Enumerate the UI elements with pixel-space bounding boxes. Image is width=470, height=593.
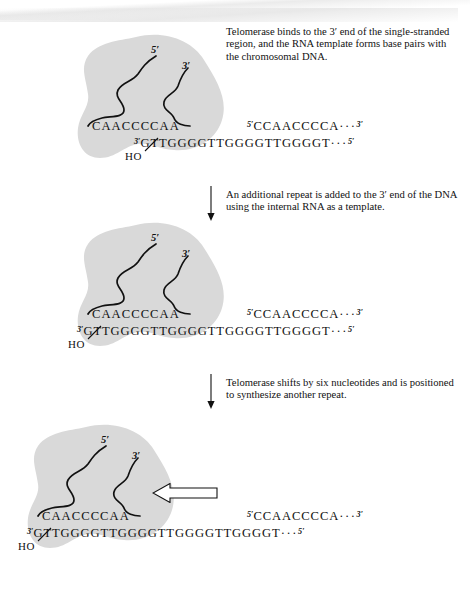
telomerase-shift-arrow	[152, 483, 218, 503]
bottom-strand-dots-2: ···	[331, 324, 348, 338]
bottom-strand-dots-3: ···	[281, 526, 298, 540]
rna-five-prime-label-2: 5′	[151, 232, 159, 243]
top-strand-end-2: 3′	[357, 308, 363, 317]
top-strand-bases-3: CCAACCCCA	[253, 509, 339, 523]
scan-shadow	[0, 0, 470, 20]
top-strand-dots-2: ···	[339, 307, 356, 321]
top-strand-end-1: 3′	[357, 120, 363, 129]
panel-1-caption: Telomerase binds to the 3′ end of the si…	[226, 26, 458, 63]
bottom-strand-end-1: 5′	[348, 137, 354, 146]
top-strand-bases-1: CCAACCCCA	[253, 119, 339, 133]
scan-shadow-streak	[0, 8, 458, 22]
top-strand-dots-3: ···	[339, 509, 356, 523]
ho-label-1: HO	[125, 150, 142, 162]
bottom-strand-bases-3: GTTGGGGTTGGGGTTGGGGTTGGGGT	[33, 526, 280, 540]
dna-top-strand-1: 5′CCAACCCCA···3′	[247, 119, 363, 134]
rna-template-sequence-1: CAACCCCAA	[92, 119, 180, 134]
panel-2-caption: An additional repeat is added to the 3′ …	[226, 189, 458, 214]
bottom-strand-bases-1: GTTGGGGTTGGGGTTGGGGT	[140, 136, 330, 150]
dna-bottom-strand-1: 3′GTTGGGGTTGGGGTTGGGGT···5′	[134, 136, 354, 151]
dna-top-strand-3: 5′CCAACCCCA···3′	[247, 509, 363, 524]
step-1-to-2-arrow	[205, 186, 217, 222]
dna-top-strand-2: 5′CCAACCCCA···3′	[247, 307, 363, 322]
step-2-to-3-arrow	[205, 374, 217, 410]
rna-template-sequence-3: CAACCCCAA	[42, 509, 130, 524]
bottom-strand-dots-1: ···	[331, 136, 348, 150]
ho-label-2: HO	[68, 338, 85, 350]
top-strand-end-3: 3′	[357, 510, 363, 519]
ho-label-3: HO	[18, 540, 35, 552]
top-strand-dots-1: ···	[339, 119, 356, 133]
panel-3-caption: Telomerase shifts by six nucleotides and…	[226, 377, 458, 402]
rna-three-prime-label-2: 3′	[182, 248, 190, 259]
bottom-strand-end-2: 5′	[348, 325, 354, 334]
bottom-strand-bases-2: GTTGGGGTTGGGGTTGGGGTTGGGGT	[83, 324, 330, 338]
top-strand-bases-2: CCAACCCCA	[253, 307, 339, 321]
rna-template-sequence-2: CAACCCCAA	[92, 307, 180, 322]
bottom-strand-end-3: 5′	[298, 527, 304, 536]
dna-bottom-strand-3: 3′GTTGGGGTTGGGGTTGGGGTTGGGGT···5′	[27, 526, 304, 541]
rna-five-prime-label-1: 5′	[151, 44, 159, 55]
rna-three-prime-label-1: 3′	[182, 60, 190, 71]
rna-three-prime-label-3: 3′	[132, 450, 140, 461]
dna-bottom-strand-2: 3′GTTGGGGTTGGGGTTGGGGTTGGGGT···5′	[77, 324, 354, 339]
rna-five-prime-label-3: 5′	[101, 434, 109, 445]
